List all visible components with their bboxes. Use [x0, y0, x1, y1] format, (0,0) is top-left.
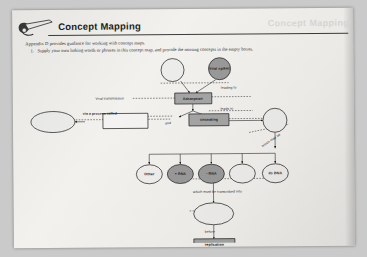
node-plus-rna — [167, 164, 193, 183]
node-empty-lower-ellipse — [194, 203, 234, 225]
pencil-writing-icon — [15, 18, 57, 40]
header-ghost-title: Concept Mapping — [268, 18, 350, 29]
concept-map-graphics — [12, 52, 354, 245]
node-minus-rna — [198, 164, 224, 183]
page-title: Concept Mapping — [58, 20, 141, 32]
node-uncoating — [189, 114, 229, 126]
scanned-page: Concept Mapping Concept Mapping Appendix… — [12, 8, 355, 249]
node-other — [136, 165, 162, 184]
header-rule — [48, 33, 348, 36]
screenshot-root: Concept Mapping Concept Mapping Appendix… — [0, 0, 367, 257]
node-empty-left-ellipse — [31, 111, 75, 132]
node-empty-middle-box — [103, 113, 148, 128]
node-replication — [194, 239, 235, 245]
node-viral-spikes — [208, 58, 230, 80]
node-empty-top-circle — [161, 58, 184, 81]
node-empty-right-circle — [263, 108, 287, 132]
node-ds-dna — [262, 164, 288, 183]
node-empty-ellipse-4 — [229, 164, 255, 183]
node-adsorption — [175, 93, 212, 104]
concept-map: Viral spikes Adsorption uncoating Other … — [12, 52, 354, 245]
page-header: Concept Mapping Concept Mapping — [12, 16, 353, 39]
